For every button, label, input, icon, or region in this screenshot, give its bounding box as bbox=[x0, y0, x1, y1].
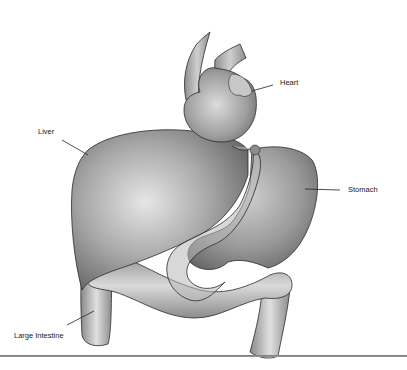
organs-illustration bbox=[0, 0, 407, 370]
bottom-rule bbox=[0, 355, 407, 357]
heart-leader-line bbox=[252, 85, 273, 91]
liver-label: Liver bbox=[38, 128, 54, 136]
large-intestine-label: Large Intestine bbox=[14, 332, 64, 340]
stomach-label: Stomach bbox=[348, 186, 378, 194]
stomach-cardia bbox=[250, 145, 260, 155]
heart-label: Heart bbox=[280, 79, 298, 87]
anatomy-diagram: Heart Liver Stomach Large Intestine bbox=[0, 0, 407, 370]
liver-leader-line bbox=[62, 140, 88, 155]
heart-atrium bbox=[229, 74, 252, 96]
